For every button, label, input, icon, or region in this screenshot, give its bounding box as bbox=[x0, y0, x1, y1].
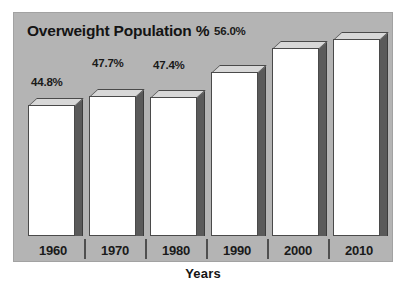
x-axis-title: Years bbox=[0, 266, 406, 281]
bar-1960[interactable] bbox=[28, 99, 83, 236]
bar-side-face bbox=[135, 90, 144, 236]
bar-1990[interactable] bbox=[211, 66, 266, 236]
bar-2010[interactable] bbox=[333, 33, 388, 236]
bar-group-1980: 47.4% bbox=[150, 17, 214, 236]
bar-value-label: 44.8% bbox=[31, 76, 63, 88]
x-axis-label-1970: 1970 bbox=[86, 243, 144, 258]
x-axis-label-2000: 2000 bbox=[269, 243, 327, 258]
bar-side-face bbox=[196, 91, 205, 236]
bar-front-face bbox=[28, 105, 75, 236]
bar-1970[interactable] bbox=[89, 90, 144, 236]
bar-side-face bbox=[257, 66, 266, 236]
bar-2000[interactable] bbox=[272, 42, 327, 236]
x-axis-label-1980: 1980 bbox=[147, 243, 205, 258]
x-axis-label-1990: 1990 bbox=[208, 243, 266, 258]
bar-front-face bbox=[150, 97, 197, 236]
plot-area: Overweight Population % 44.8% 47.7% 47.4… bbox=[13, 12, 393, 262]
bar-group-2010: 68.0% bbox=[333, 12, 393, 236]
bar-side-face bbox=[379, 33, 388, 236]
bar-1980[interactable] bbox=[150, 91, 205, 236]
bar-value-label: 47.4% bbox=[153, 59, 185, 71]
bar-front-face bbox=[89, 96, 136, 236]
bar-group-2000: 65.2% bbox=[272, 12, 336, 236]
bar-group-1990: 56.0% bbox=[211, 12, 275, 236]
bar-front-face bbox=[333, 39, 380, 236]
chart-container: Overweight Population % 44.8% 47.7% 47.4… bbox=[0, 0, 406, 291]
bar-side-face bbox=[74, 99, 83, 236]
bar-front-face bbox=[211, 72, 258, 236]
bar-group-1960: 44.8% bbox=[28, 26, 92, 236]
bar-front-face bbox=[272, 48, 319, 236]
bar-value-label: 47.7% bbox=[92, 57, 124, 69]
bar-value-label: 56.0% bbox=[214, 25, 246, 37]
bar-side-face bbox=[318, 42, 327, 236]
x-axis-label-2010: 2010 bbox=[330, 243, 388, 258]
bar-group-1970: 47.7% bbox=[89, 16, 153, 236]
x-axis-label-1960: 1960 bbox=[24, 243, 82, 258]
